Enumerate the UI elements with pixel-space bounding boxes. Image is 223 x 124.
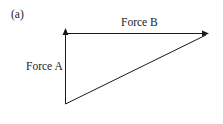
force-b-arrow: [66, 31, 209, 37]
force-a-arrow: [63, 28, 69, 104]
force-a-label: Force A: [26, 61, 63, 73]
resultant-line: [66, 35, 207, 104]
force-b-label: Force B: [121, 17, 158, 29]
